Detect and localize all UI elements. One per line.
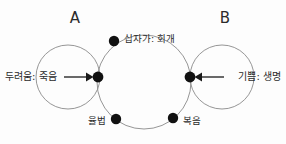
- right-inflow-label: 기쁨: 생명: [238, 71, 281, 82]
- bottom-left-node-label: 율법: [88, 115, 106, 126]
- group-label-a: A: [70, 9, 81, 27]
- bottom-left-node-dot: [111, 114, 121, 124]
- top-node-dot: [109, 36, 119, 46]
- left-inflow-label: 두려움: 죽음: [5, 71, 57, 82]
- group-label-b: B: [220, 9, 230, 27]
- top-node-label: 십자가: 회개: [124, 33, 175, 44]
- left-intersection-node-dot: [93, 72, 104, 83]
- diagram-canvas: A B 두려움: 죽음 기쁨: 생명 십자가: 회개 율법 복음: [0, 0, 286, 144]
- right-arrow-head: [195, 73, 203, 82]
- right-inflow-arrow: [195, 73, 225, 82]
- right-intersection-node-dot: [185, 72, 196, 83]
- left-inflow-arrow: [64, 73, 94, 82]
- venn-cycle-diagram: A B 두려움: 죽음 기쁨: 생명 십자가: 회개 율법 복음: [0, 0, 286, 144]
- bottom-right-node-dot: [168, 113, 178, 123]
- left-arrow-head: [86, 73, 94, 82]
- bottom-right-node-label: 복음: [183, 115, 201, 126]
